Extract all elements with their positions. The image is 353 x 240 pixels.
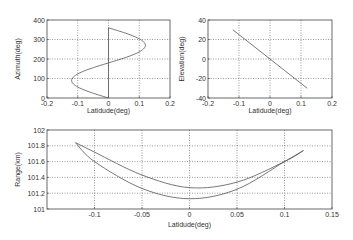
x-tick-label: 0.1 <box>280 211 290 218</box>
y-tick-label: -40 <box>196 95 206 102</box>
x-tick-label: 0.2 <box>327 100 337 107</box>
azimuth-plot: -0.2-0.100.10.20100200300400Latidude(deg… <box>14 17 175 116</box>
y-tick-label: 101.4 <box>27 174 45 181</box>
x-tick-label: 0.1 <box>296 100 306 107</box>
x-tick-label: -0.1 <box>88 211 100 218</box>
y-tick-label: 300 <box>33 36 45 43</box>
x-tick-label: 0.05 <box>230 211 244 218</box>
x-axis-label: Latidude(deg) <box>87 107 130 115</box>
x-tick-label: -0.1 <box>233 100 245 107</box>
x-tick-label: 0.1 <box>134 100 144 107</box>
x-tick-label: -0.05 <box>134 211 150 218</box>
axes-box <box>47 130 332 209</box>
y-axis-label: Azimuth(deg) <box>14 38 22 80</box>
y-tick-label: 101.8 <box>27 142 45 149</box>
y-tick-label: 40 <box>198 17 206 24</box>
x-axis-label: Latidude(deg) <box>168 221 211 229</box>
elevation-plot: -0.2-0.100.10.2-40-2002040Latidude(deg)E… <box>178 17 337 116</box>
y-tick-label: 101.6 <box>27 158 45 165</box>
y-tick-label: 101 <box>33 206 45 213</box>
y-tick-label: 400 <box>33 17 45 24</box>
y-tick-label: 0 <box>202 56 206 63</box>
range-plot: -0.1-0.0500.050.10.15101101.2101.4101.61… <box>14 127 339 230</box>
y-tick-label: 200 <box>33 56 45 63</box>
y-tick-label: 102 <box>33 127 45 134</box>
x-tick-label: 0 <box>268 100 272 107</box>
y-tick-label: 0 <box>41 95 45 102</box>
x-axis-label: Latidude(deg) <box>248 107 291 115</box>
x-tick-label: 0.15 <box>325 211 339 218</box>
y-tick-label: 101.2 <box>27 190 45 197</box>
y-tick-label: 20 <box>198 36 206 43</box>
figure: -0.2-0.100.10.20100200300400Latidude(deg… <box>0 0 353 240</box>
y-tick-label: 100 <box>33 75 45 82</box>
y-axis-label: Elevation(deg) <box>178 36 186 81</box>
y-tick-label: -20 <box>196 75 206 82</box>
x-tick-label: 0 <box>107 100 111 107</box>
x-tick-label: 0.2 <box>165 100 175 107</box>
x-tick-label: -0.1 <box>72 100 84 107</box>
x-tick-label: 0 <box>188 211 192 218</box>
y-axis-label: Range(km) <box>14 152 22 187</box>
